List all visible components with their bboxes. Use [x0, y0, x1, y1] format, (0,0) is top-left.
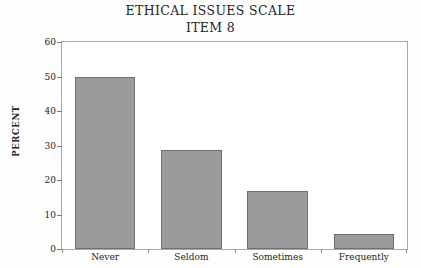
x-axis-tick-label: Frequently [339, 252, 389, 262]
y-axis-tick-label: 0 [34, 244, 56, 254]
x-axis-tick-label: Never [91, 252, 119, 262]
plot-area: 0102030405060NeverSeldomSometimesFrequen… [61, 41, 408, 250]
y-axis-tick-mark [57, 42, 62, 43]
y-axis-tick-label: 60 [34, 37, 56, 47]
x-axis-tick-mark [406, 249, 407, 253]
y-axis-tick-label: 20 [34, 175, 56, 185]
y-axis-tick-label: 10 [34, 210, 56, 220]
x-axis-tick-mark [62, 249, 63, 253]
y-axis-tick-label: 50 [34, 72, 56, 82]
y-axis-tick-mark [57, 215, 62, 216]
y-axis-tick-label: 30 [34, 141, 56, 151]
y-axis-tick-label: 40 [34, 106, 56, 116]
x-axis-tick-label: Seldom [174, 252, 208, 262]
x-axis-tick-mark [148, 249, 149, 253]
chart-subtitle: ITEM 8 [0, 19, 421, 36]
x-axis-tick-mark [321, 249, 322, 253]
y-axis-tick-mark [57, 111, 62, 112]
bar [75, 77, 135, 250]
bar [247, 191, 307, 249]
x-axis-tick-label: Sometimes [252, 252, 302, 262]
chart-figure: ETHICAL ISSUES SCALE ITEM 8 PERCENT 0102… [0, 0, 421, 268]
y-axis-tick-mark [57, 180, 62, 181]
x-axis-tick-mark [235, 249, 236, 253]
plot-inner: 0102030405060NeverSeldomSometimesFrequen… [62, 42, 407, 249]
y-axis-tick-mark [57, 146, 62, 147]
chart-title: ETHICAL ISSUES SCALE [0, 2, 421, 19]
bar [161, 150, 221, 249]
y-axis-tick-mark [57, 77, 62, 78]
bar [334, 234, 394, 249]
chart-title-block: ETHICAL ISSUES SCALE ITEM 8 [0, 2, 421, 36]
y-axis-title: PERCENT [11, 86, 21, 176]
